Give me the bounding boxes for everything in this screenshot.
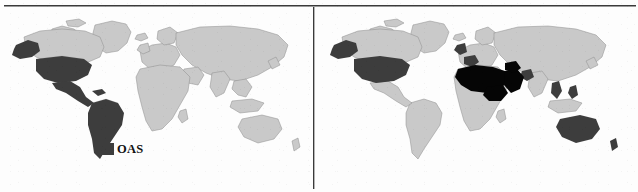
highlight-philippines-seato <box>568 85 578 99</box>
land-iceland-2 <box>453 33 466 41</box>
land-scandinavia <box>157 27 178 45</box>
land-indonesia <box>230 99 264 113</box>
land-new-zealand <box>292 138 300 151</box>
panel-oas: OAS <box>0 7 313 192</box>
panel-seato-arab-league: SEATO ARAB LEAGUE <box>315 7 638 192</box>
land-se-asia <box>232 79 252 97</box>
land-australia <box>238 115 282 143</box>
figure-container: OAS <box>0 0 638 192</box>
highlight-new-zealand-seato <box>610 138 618 151</box>
highlight-united-states-seato <box>354 56 410 83</box>
highlight-thailand-seato <box>551 81 562 99</box>
highlight-australia-seato <box>556 115 600 143</box>
highlight-united-states <box>36 56 92 83</box>
land-madagascar-2 <box>496 109 506 123</box>
land-indonesia-2 <box>548 99 582 113</box>
land-central-america-2 <box>370 81 412 107</box>
world-map-seato-arab-league <box>315 7 638 192</box>
land-arctic-islands-2 <box>66 19 86 27</box>
land-arctic-islands-4 <box>384 19 404 27</box>
land-scandinavia-2 <box>475 27 496 45</box>
legend-entry-oas: OAS <box>101 143 143 155</box>
legend-label-oas: OAS <box>117 143 143 155</box>
land-south-america-2 <box>406 99 442 159</box>
highlight-mexico-central-america <box>52 81 94 107</box>
land-madagascar <box>178 109 188 123</box>
world-map-oas <box>0 7 313 192</box>
legend-oas: OAS <box>101 143 143 155</box>
legend-swatch-oas-icon <box>101 143 114 155</box>
land-india <box>210 71 230 97</box>
highlight-caribbean <box>92 89 106 96</box>
land-iceland <box>135 33 148 41</box>
